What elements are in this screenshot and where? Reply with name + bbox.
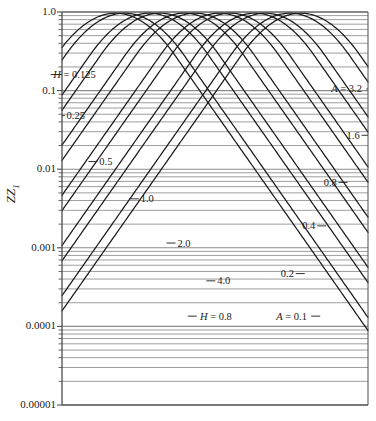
curve-h-0p25 xyxy=(62,13,368,282)
curve-label: 1.6 xyxy=(347,130,360,141)
curve-label: A = 3.2 xyxy=(330,83,362,94)
curve-h-0p125 xyxy=(62,13,368,330)
chart-plot-area: H = 0.1250.250.51.02.04.0H = 0.8A = 0.1A… xyxy=(0,0,376,421)
curve-h-4 xyxy=(62,13,368,295)
annotation-leader-lines xyxy=(51,75,368,317)
curve-label: 0.2 xyxy=(281,268,294,279)
curve-label: 0.25 xyxy=(67,110,85,121)
curve-label: A = 0.1 xyxy=(275,311,307,322)
curve-label: 1.0 xyxy=(141,193,154,204)
curve-label: H = 0.125 xyxy=(52,69,95,80)
curve-label: 0.8 xyxy=(324,177,337,188)
curve-label: 0.4 xyxy=(302,220,316,231)
curve-label: 4.0 xyxy=(217,275,230,286)
curve-lines xyxy=(62,13,368,330)
chart-figure: ZZ1 1.00.10.010.0010.00010.00001 H = 0.1… xyxy=(0,0,376,421)
curve-label: H = 0.8 xyxy=(199,311,232,322)
curve-label: 0.5 xyxy=(99,156,112,167)
curve-label: 2.0 xyxy=(177,238,190,249)
plot-frame xyxy=(62,12,368,405)
